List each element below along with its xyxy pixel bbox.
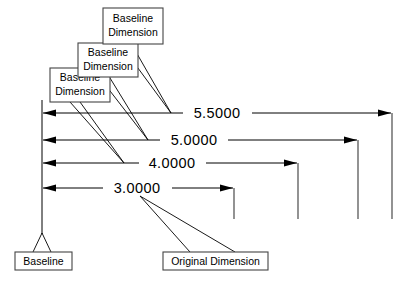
label-original-dimension-text: Original Dimension xyxy=(171,255,260,267)
label-baseline[interactable]: Baseline xyxy=(15,252,72,270)
callout-box-3-line2: Dimension xyxy=(108,26,158,38)
label-original-dimension[interactable]: Original Dimension xyxy=(163,252,268,270)
callout-box-2-line2: Dimension xyxy=(83,60,133,72)
dimension-line-5-0000: 5.0000 xyxy=(43,132,357,148)
arrowhead-right-5-5000 xyxy=(378,110,391,117)
leader-label-original-dimension xyxy=(140,196,235,252)
callout-box-3-line1: Baseline xyxy=(113,12,153,24)
dimension-value-4-0000: 4.0000 xyxy=(149,155,196,171)
arrowhead-left-4-0000 xyxy=(43,160,56,167)
arrowhead-right-3-0000 xyxy=(220,185,233,192)
callout-box-2-line1: Baseline xyxy=(88,46,128,58)
leader-callout-baseline-dimension-1 xyxy=(70,102,124,163)
arrowhead-left-3-0000 xyxy=(43,185,56,192)
dimension-line-4-0000: 4.0000 xyxy=(43,155,297,171)
drawing-canvas: 5.5000 5.0000 4.0000 3.0000 xyxy=(0,0,408,283)
callout-baseline-dimension-3[interactable]: Baseline Dimension xyxy=(103,8,163,44)
arrowhead-right-5-0000 xyxy=(344,137,357,144)
dimension-line-3-0000: 3.0000 xyxy=(43,180,233,196)
baseline-dimension-drawing: 5.5000 5.0000 4.0000 3.0000 xyxy=(0,0,408,283)
dimension-value-5-5000: 5.5000 xyxy=(194,105,241,121)
arrowhead-left-5-0000 xyxy=(43,137,56,144)
dimension-line-5-5000: 5.5000 xyxy=(43,105,391,121)
label-baseline-text: Baseline xyxy=(23,255,63,267)
dimension-value-5-0000: 5.0000 xyxy=(171,132,218,148)
callout-box-1-line2: Dimension xyxy=(55,85,105,97)
arrowhead-right-4-0000 xyxy=(284,160,297,167)
callout-baseline-dimension-2[interactable]: Baseline Dimension xyxy=(78,43,138,77)
dimension-value-3-0000: 3.0000 xyxy=(114,180,161,196)
arrowhead-left-5-5000 xyxy=(43,110,56,117)
leader-label-baseline xyxy=(33,233,51,252)
